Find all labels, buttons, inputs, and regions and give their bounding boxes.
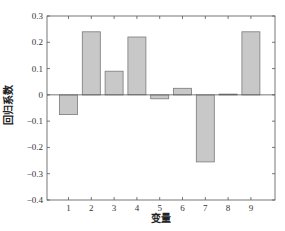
bar-4 <box>128 37 146 95</box>
bar-2 <box>82 32 100 95</box>
y-tick-label: 0.2 <box>32 37 43 47</box>
bars-group <box>60 32 260 162</box>
y-axis-title: 回归系数 <box>2 84 14 125</box>
y-tick-label: 0.1 <box>32 64 43 74</box>
bar-chart: 0.30.20.10−0.1−0.2−0.3−0.4 123456789 变量 … <box>0 0 285 231</box>
axes-frame <box>47 16 275 200</box>
bar-3 <box>105 71 123 95</box>
x-tick-label: 3 <box>112 203 117 213</box>
x-tick-label: 4 <box>135 203 140 213</box>
x-tick-label: 1 <box>66 203 71 213</box>
bar-9 <box>242 32 260 95</box>
y-tick-label: −0.3 <box>27 169 44 179</box>
bar-7 <box>196 95 214 162</box>
y-tick-label: −0.1 <box>27 116 43 126</box>
bar-6 <box>174 88 192 95</box>
x-tick-label: 5 <box>157 203 162 213</box>
bar-1 <box>60 95 78 115</box>
x-tick-label: 2 <box>89 203 94 213</box>
x-tick-label: 6 <box>180 203 185 213</box>
x-tick-label: 9 <box>249 203 254 213</box>
y-tick-label: −0.2 <box>27 142 43 152</box>
axes <box>47 16 275 200</box>
x-axis-title: 变量 <box>151 212 171 224</box>
y-tick-label: 0.3 <box>32 11 44 21</box>
y-tick-label: −0.4 <box>27 195 44 205</box>
y-tick-label: 0 <box>39 90 44 100</box>
x-tick-label: 7 <box>203 203 208 213</box>
bar-5 <box>151 95 169 99</box>
x-tick-label: 8 <box>226 203 231 213</box>
